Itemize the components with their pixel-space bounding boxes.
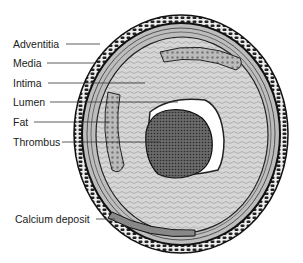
- label-thrombus: Thrombus: [13, 136, 60, 148]
- label-media: Media: [13, 57, 42, 69]
- label-adventitia: Adventitia: [13, 38, 59, 50]
- label-calcium-deposit: Calcium deposit: [15, 213, 90, 225]
- label-intima: Intima: [13, 77, 42, 89]
- artery-diagram: Adventitia Media Intima Lumen Fat Thromb…: [0, 0, 303, 263]
- label-lumen: Lumen: [13, 96, 45, 108]
- thrombus: [146, 110, 213, 178]
- label-fat: Fat: [13, 116, 28, 128]
